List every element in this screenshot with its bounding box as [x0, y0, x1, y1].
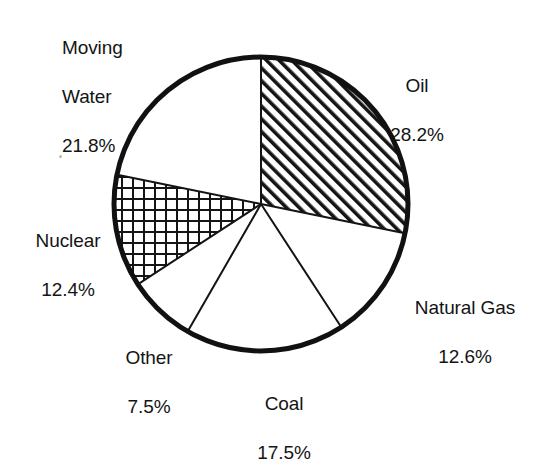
pie-label-natural-gas-name: Natural Gas — [396, 296, 534, 320]
pie-label-oil-name: Oil — [352, 74, 482, 98]
pie-label-natural-gas: Natural Gas 12.6% — [396, 272, 534, 394]
pie-label-oil: Oil 28.2% — [352, 50, 482, 172]
pie-label-coal-name: Coal — [222, 392, 346, 416]
pie-label-moving-water: Moving Water 21.8% — [62, 12, 190, 182]
pie-label-other: Other 7.5% — [94, 322, 204, 444]
pie-label-coal: Coal 17.5% — [222, 368, 346, 463]
pie-label-moving-water-line1: Moving — [62, 36, 190, 60]
pie-label-nuclear-name: Nuclear — [16, 229, 120, 253]
pie-label-other-name: Other — [94, 346, 204, 370]
pie-label-moving-water-line2: Water — [62, 85, 190, 109]
pie-label-other-value: 7.5% — [94, 395, 204, 419]
pie-label-nuclear-value: 12.4% — [16, 278, 120, 302]
pie-label-natural-gas-value: 12.6% — [396, 345, 534, 369]
pie-label-moving-water-value: 21.8% — [62, 134, 190, 158]
scan-artifact-speck — [59, 155, 62, 158]
pie-label-oil-value: 28.2% — [352, 123, 482, 147]
pie-label-nuclear: Nuclear 12.4% — [16, 205, 120, 327]
pie-label-coal-value: 17.5% — [222, 441, 346, 463]
